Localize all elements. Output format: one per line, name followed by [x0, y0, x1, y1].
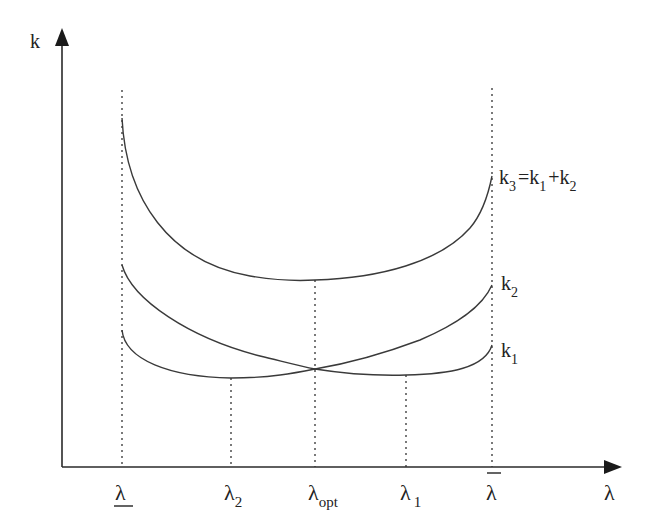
- lambda-1-main: λ: [400, 480, 411, 505]
- label-k1: k1: [501, 339, 518, 367]
- k2-main: k: [501, 272, 511, 294]
- svg-text:λ1: λ1: [400, 480, 421, 510]
- k3-eq: =k: [518, 166, 539, 188]
- tick-lambda-opt: λopt: [308, 480, 339, 510]
- svg-text:k3=k1+k2: k3=k1+k2: [499, 166, 577, 194]
- k3-sub: 3: [509, 179, 516, 194]
- label-k3: k3=k1+k2: [499, 166, 577, 194]
- k3-plus: +k: [548, 166, 569, 188]
- y-axis-label: k: [30, 30, 40, 52]
- y-axis-arrow-icon: [55, 28, 69, 46]
- lambda-2-main: λ: [224, 480, 235, 505]
- svg-text:λ: λ: [486, 480, 497, 505]
- svg-text:k2: k2: [501, 272, 518, 300]
- lambda-1-sub: 1: [414, 494, 422, 510]
- k2-sub: 2: [511, 285, 518, 300]
- k3-sub1: 1: [539, 179, 546, 194]
- x-axis-label: λ: [604, 480, 615, 505]
- lambda-opt-sub: opt: [319, 494, 339, 510]
- curve-k1: [122, 330, 492, 378]
- lambda-opt-main: λ: [308, 480, 319, 505]
- tick-lambda-lower: λ: [114, 480, 133, 506]
- svg-text:k1: k1: [501, 339, 518, 367]
- k3-main: k: [499, 166, 509, 188]
- label-k2: k2: [501, 272, 518, 300]
- k3-sub2: 2: [570, 179, 577, 194]
- tick-lambda-1: λ1: [400, 480, 421, 510]
- lambda-2-sub: 2: [235, 494, 243, 510]
- tick-lambda-upper: λ: [486, 473, 501, 505]
- svg-text:λopt: λopt: [308, 480, 339, 510]
- svg-text:λ2: λ2: [224, 480, 242, 510]
- k1-sub: 1: [511, 352, 518, 367]
- tick-lambda-2: λ2: [224, 480, 242, 510]
- svg-text:λ: λ: [115, 480, 126, 505]
- k1-main: k: [501, 339, 511, 361]
- cost-curves-diagram: k λ k3=k1+k2 k2 k1 λ λ2: [0, 0, 650, 526]
- curve-k3: [122, 118, 492, 281]
- x-axis-arrow-icon: [604, 460, 622, 474]
